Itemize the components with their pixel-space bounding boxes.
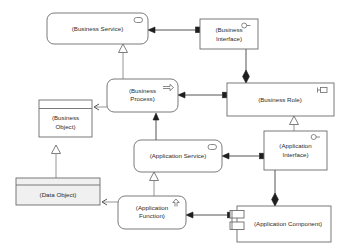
node-label-application-component: (Application Component): [254, 220, 322, 227]
connection-appservice-serves-process: [153, 113, 159, 140]
node-label-business-process-line2: Process): [130, 95, 154, 102]
connection-appinterface-to-role: [290, 116, 299, 131]
connection-interface-to-service: [148, 27, 201, 33]
solid-arrow-marker: [148, 27, 155, 33]
connection-appfunction-realizes-service: [150, 172, 159, 196]
node-label-business-object-line2: Object): [56, 123, 76, 130]
node-label-application-function-line1: (Application: [136, 204, 169, 211]
diagram-canvas: (Business Service) (Business Interface) …: [0, 0, 340, 252]
node-label-business-interface-line2: Interface): [216, 35, 242, 42]
node-label-data-object: (Data Object): [40, 191, 77, 198]
node-label-application-service: (Application Service): [150, 152, 207, 159]
connection-process-accesses-object: [94, 104, 107, 110]
node-business-role[interactable]: (Business Role): [227, 83, 334, 116]
hollow-triangle-marker: [52, 145, 61, 154]
archimate-diagram: (Business Service) (Business Interface) …: [0, 0, 340, 252]
node-application-service[interactable]: (Application Service): [134, 140, 222, 172]
node-label-business-service: (Business Service): [72, 25, 124, 32]
solid-arrow-marker: [153, 113, 159, 120]
node-business-object[interactable]: (Business Object): [39, 100, 92, 137]
node-business-interface[interactable]: (Business Interface): [200, 19, 258, 49]
node-label-business-interface-line1: (Business: [215, 26, 242, 33]
connection-role-to-process: [178, 92, 228, 98]
connection-appinterface-to-appservice: [222, 153, 265, 159]
connection-component-to-function: [186, 212, 233, 218]
connection-role-composes-interface: [243, 49, 250, 83]
node-business-process[interactable]: (Business Process): [107, 79, 178, 112]
connection-component-composes-interface: [272, 170, 279, 206]
node-application-function[interactable]: (Application Function): [118, 196, 186, 229]
connection-function-accesses-dataobject: [102, 199, 118, 205]
node-business-service[interactable]: (Business Service): [47, 13, 148, 44]
solid-arrow-marker: [222, 153, 229, 159]
connection-process-realizes-service: [119, 44, 128, 79]
filled-diamond-marker: [243, 70, 250, 83]
node-label-business-process-line1: (Business: [129, 87, 156, 94]
node-label-business-object-line1: (Business: [52, 114, 79, 121]
node-data-object[interactable]: (Data Object): [16, 178, 100, 205]
solid-arrow-marker: [178, 92, 185, 98]
connection-dataobject-realizes-object: [52, 145, 61, 178]
hollow-triangle-marker: [290, 116, 299, 125]
node-application-interface[interactable]: (Application Interface): [264, 131, 327, 170]
node-application-component[interactable]: (Application Component): [230, 206, 331, 242]
solid-arrow-marker: [186, 212, 193, 218]
node-label-business-role: (Business Role): [258, 96, 302, 103]
hollow-triangle-marker: [150, 172, 159, 181]
node-label-application-function-line2: Function): [139, 212, 165, 219]
node-label-application-interface-line1: (Application: [279, 142, 312, 149]
hollow-triangle-marker: [119, 44, 128, 53]
filled-diamond-marker: [272, 193, 279, 206]
node-label-application-interface-line2: Interface): [282, 151, 308, 158]
